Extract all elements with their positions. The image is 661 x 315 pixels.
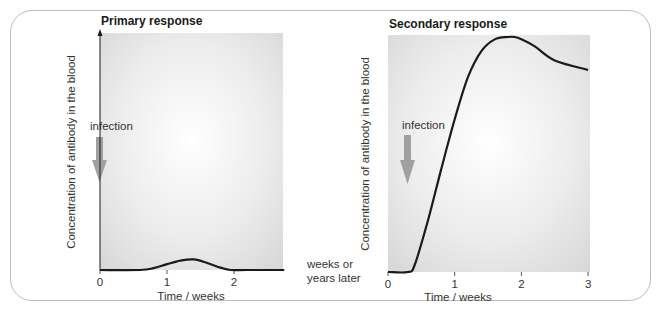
arrow-shaft	[404, 135, 411, 163]
primary-x-tick-label: 2	[231, 276, 237, 288]
primary-x-tick-label: 0	[97, 276, 103, 288]
secondary-x-axis-title: Time / weeks	[424, 291, 492, 303]
primary-x-tick-label: 1	[164, 276, 170, 288]
secondary-x-tick-label: 1	[451, 278, 457, 290]
figure: Primary response 012 Time / weeks Concen…	[0, 0, 661, 315]
secondary-plot-background	[388, 35, 590, 272]
secondary-title: Secondary response	[389, 17, 507, 31]
primary-x-axis-title: Time / weeks	[157, 290, 225, 302]
secondary-infection-label: infection	[402, 119, 445, 131]
secondary-y-axis-title: Concentration of antibody in the blood	[359, 57, 371, 251]
between-label-line1: weeks or	[306, 258, 353, 270]
secondary-x-tick-label: 2	[518, 278, 524, 290]
secondary-panel: Secondary response 0123 Time / weeks Con…	[359, 17, 591, 303]
primary-plot-background	[100, 33, 283, 270]
primary-panel: Primary response 012 Time / weeks Concen…	[65, 14, 284, 302]
primary-infection-label: infection	[90, 120, 133, 132]
primary-title: Primary response	[101, 14, 203, 28]
secondary-x-tick-label: 0	[385, 278, 391, 290]
y-axis-arrowhead-icon	[98, 29, 103, 36]
between-label-line2: years later	[307, 272, 361, 284]
secondary-x-tick-label: 3	[585, 278, 591, 290]
primary-y-axis-title: Concentration of antibody in the blood	[65, 55, 77, 249]
